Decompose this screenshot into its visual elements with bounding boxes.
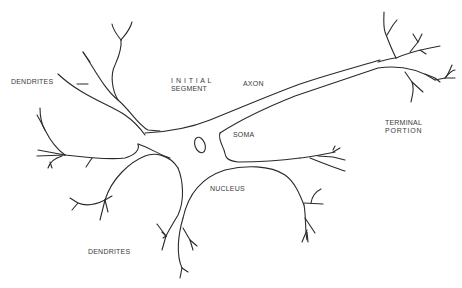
label-axon: AXON xyxy=(243,80,264,88)
neuron-diagram xyxy=(0,0,462,288)
dendrites-right-soma xyxy=(300,146,345,171)
label-terminal-line1: TERMINAL xyxy=(385,119,422,127)
label-soma: SOMA xyxy=(233,131,254,139)
label-initial-segment-line2: SEGMENT xyxy=(171,85,212,93)
soma xyxy=(138,60,435,162)
label-terminal-portion: TERMINAL PORTION xyxy=(385,119,422,135)
label-terminal-line2: PORTION xyxy=(385,127,422,135)
label-dendrites-top: DENDRITES xyxy=(11,78,53,86)
dendrites-left xyxy=(37,108,138,168)
dendrites-upper-left xyxy=(58,22,160,135)
label-nucleus: NUCLEUS xyxy=(210,185,245,193)
organelle-oval xyxy=(193,136,208,154)
dendrites-lower xyxy=(70,154,183,250)
nucleus-outline xyxy=(178,167,323,278)
label-initial-segment: I N I T I A L SEGMENT xyxy=(171,77,212,93)
terminal-branches xyxy=(378,12,455,102)
label-initial-segment-line1: I N I T I A L xyxy=(171,77,212,85)
label-dendrites-bottom: DENDRITES xyxy=(88,248,130,256)
